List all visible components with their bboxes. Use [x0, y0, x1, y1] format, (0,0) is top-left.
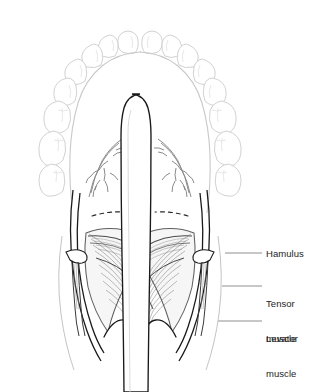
label-hamulus: Hamulus [266, 248, 304, 260]
label-levator-line1: Levator [266, 333, 298, 345]
vomer-nasal-septum [121, 94, 151, 392]
label-tensor-line1: Tensor [266, 298, 296, 310]
palatine-vessels-right [154, 139, 194, 197]
label-levator-muscle: Levator muscle [266, 310, 298, 392]
leader-lines [218, 253, 262, 321]
anatomical-figure: Hamulus Tensor muscle Levator muscle [0, 0, 331, 392]
palatine-vessels-left [86, 139, 126, 197]
label-levator-line2: muscle [266, 368, 298, 380]
